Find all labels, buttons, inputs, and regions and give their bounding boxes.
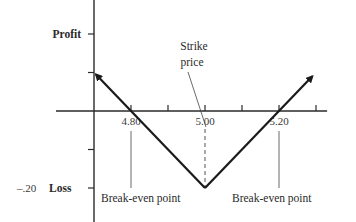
strike-price-label-line1: Strike [180, 40, 207, 52]
payoff-left-leg [96, 75, 205, 189]
break-even-right-label: Break-even point [232, 192, 312, 205]
y-label-loss: Loss [49, 182, 72, 194]
straddle-payoff-chart: Profit Loss –.20 4.805.005.20 Strike pri… [0, 0, 356, 222]
y-label-profit: Profit [52, 28, 81, 40]
break-even-left-label: Break-even point [101, 192, 181, 205]
y-tick-label-loss-value: –.20 [16, 182, 37, 194]
x-tick-label: 4.80 [121, 115, 141, 127]
payoff-right-leg [205, 76, 312, 188]
payoff-series [96, 75, 312, 189]
strike-price-label-line2: price [181, 56, 204, 69]
x-ticks [131, 105, 316, 111]
